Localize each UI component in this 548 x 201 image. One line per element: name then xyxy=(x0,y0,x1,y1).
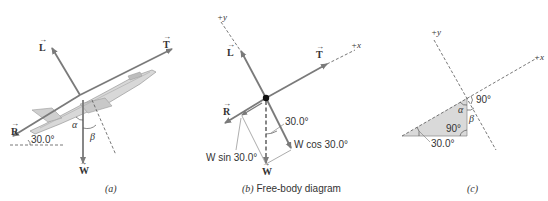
leader-line xyxy=(236,118,241,150)
panel-b-caption: (b) Free-body diagram xyxy=(242,184,341,194)
alpha-label: α xyxy=(458,105,463,115)
climb-angle-label: 30.0° xyxy=(31,135,54,145)
lift-vector xyxy=(52,48,80,95)
panel-c-caption: (c) xyxy=(467,184,478,194)
y-axis-label: +y xyxy=(217,13,227,22)
thrust-label: T xyxy=(316,50,323,60)
physics-figure: L T R W 30.0° α β (a) +y +x L T R W 30.0… xyxy=(0,0,548,201)
panel-c xyxy=(402,40,537,150)
center-of-mass-dot xyxy=(263,95,269,101)
beta-label: β xyxy=(90,132,95,142)
base-angle-label: 30.0° xyxy=(431,139,454,149)
beta-label: β xyxy=(469,114,474,124)
weight-label: W xyxy=(79,166,89,176)
drag-label: R xyxy=(11,127,18,137)
panel-a xyxy=(10,48,172,163)
w-sin-label: W sin 30.0° xyxy=(206,153,257,163)
panel-a-caption: (a) xyxy=(105,184,117,194)
panel-b-caption-letter: (b) xyxy=(242,183,254,194)
thrust-label: T xyxy=(163,40,170,50)
drag-label: R xyxy=(223,107,230,117)
x-axis xyxy=(402,58,537,136)
alpha-label: α xyxy=(72,120,77,130)
lift-label: L xyxy=(227,48,234,58)
panel-b-caption-text: Free-body diagram xyxy=(256,183,340,194)
climb-angle-arc xyxy=(28,140,30,145)
w-cos-label: W cos 30.0° xyxy=(294,140,348,150)
weight-label: W xyxy=(262,167,272,177)
drag-vector xyxy=(225,98,266,123)
thrust-vector xyxy=(266,64,327,98)
w-sin-component-vector xyxy=(242,103,262,115)
x-axis xyxy=(327,50,355,64)
right-angle-triangle-label: 90° xyxy=(446,124,461,134)
lift-vector xyxy=(241,51,266,98)
lift-label: L xyxy=(39,43,46,53)
right-angle-mark-top xyxy=(471,96,473,104)
y-axis-label: +y xyxy=(431,28,441,37)
right-angle-top-label: 90° xyxy=(476,95,491,105)
x-axis-label: +x xyxy=(351,41,361,50)
x-axis-label: +x xyxy=(534,53,544,62)
angle-label: 30.0° xyxy=(285,117,308,127)
beta-arc xyxy=(83,125,96,129)
